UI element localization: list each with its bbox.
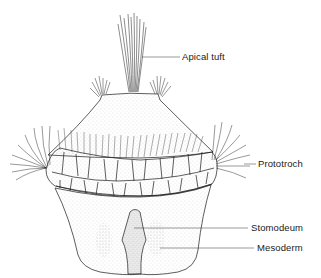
label-apical-tuft: Apical tuft [182,51,225,62]
label-mesoderm: Mesoderm [257,242,303,253]
larva-diagram [0,0,321,278]
label-prototroch: Prototroch [258,158,303,169]
apical-tuft [118,13,146,92]
mesoderm-left [96,223,112,257]
episphere [48,93,213,158]
label-stomodeum: Stomodeum [251,222,303,233]
mesoderm-right [147,220,165,256]
larva-drawing [0,0,321,278]
